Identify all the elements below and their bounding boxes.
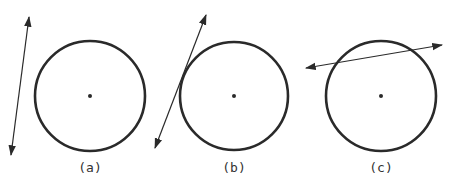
center-point-a xyxy=(88,94,92,98)
double-arrow-line-b xyxy=(155,15,206,148)
center-point-b xyxy=(232,94,236,98)
label-a: (a) xyxy=(78,160,101,175)
center-point-c xyxy=(379,94,383,98)
double-arrow-line-a xyxy=(11,17,29,155)
label-b: (b) xyxy=(222,160,245,175)
double-arrow-line-c xyxy=(306,45,442,68)
label-c: (c) xyxy=(369,160,392,175)
